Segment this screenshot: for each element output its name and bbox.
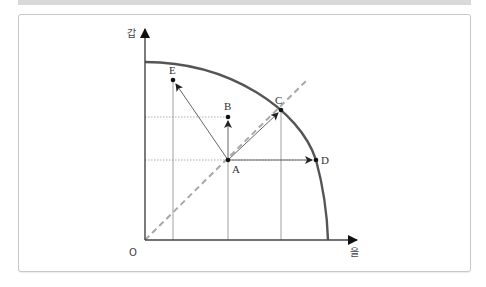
label-e: E (169, 64, 176, 76)
point-e (171, 78, 176, 83)
arrow-a-to-c (228, 113, 278, 160)
label-b: B (224, 100, 231, 112)
label-c: C (275, 94, 282, 106)
point-a (226, 158, 231, 163)
guide-lines (145, 117, 316, 160)
ppf-diagram: A B C D E 갑 을 O (0, 0, 486, 287)
origin-label: O (129, 247, 137, 258)
frontier-curve (145, 62, 328, 240)
arrow-a-to-e (176, 84, 228, 160)
point-b (226, 115, 231, 120)
y-axis-label: 갑 (127, 28, 136, 39)
label-a: A (232, 163, 240, 175)
label-d: D (321, 154, 329, 166)
point-c (279, 108, 284, 113)
point-d (314, 158, 319, 163)
x-axis-label: 을 (350, 247, 359, 258)
